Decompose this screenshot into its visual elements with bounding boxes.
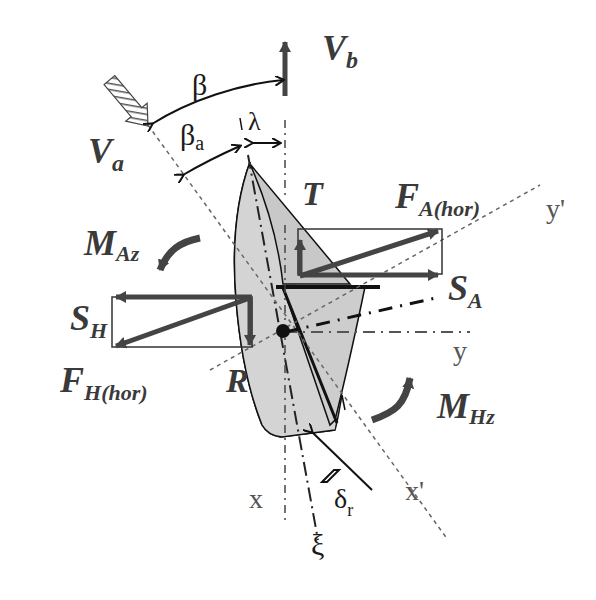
maz-label: MAz	[83, 223, 140, 266]
xi-label: ξ	[311, 528, 324, 561]
va-label: Va	[88, 131, 124, 176]
rudder-angle-label: δr	[334, 483, 353, 520]
mhz-label: MHz	[436, 386, 495, 429]
beta-arc	[152, 80, 283, 124]
heading-tick	[240, 118, 242, 130]
resistance-label: R	[225, 362, 249, 399]
fa-hor-label: FA(hor)	[394, 176, 480, 221]
sa-label: SA	[448, 268, 483, 313]
x-prime-label: x'	[405, 475, 424, 506]
va-wind-arrow	[99, 71, 159, 135]
rudder-angle-marker	[322, 470, 339, 482]
center-of-effort	[276, 324, 290, 338]
beta-a-label: βa	[180, 118, 204, 154]
rudder	[312, 432, 372, 490]
y-prime-label: y'	[546, 193, 565, 224]
vb-label: Vb	[322, 28, 358, 73]
sh-label: SH	[70, 298, 108, 343]
lambda-label: λ	[248, 107, 261, 136]
x-label: x	[249, 483, 263, 514]
mhz-moment-arrow	[372, 378, 410, 420]
beta-label: β	[192, 68, 207, 101]
fh-hor-label: FH(hor)	[59, 360, 148, 405]
fh-hor-arrow	[116, 298, 250, 346]
thrust-label: T	[302, 175, 324, 212]
sailboat-force-diagram: Vb Va β βa λ T FA(hor) y' SA y MAz SH FH…	[0, 0, 596, 600]
maz-moment-arrow	[160, 238, 200, 270]
y-label: y	[453, 335, 467, 366]
